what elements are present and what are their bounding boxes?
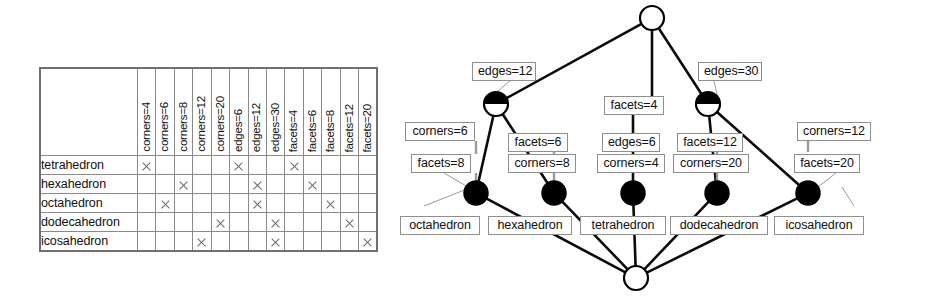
attribute-label-facets-6[interactable]: facets=6: [508, 133, 568, 152]
incidence-cell-empty: [138, 175, 156, 194]
attr-label: edges=30: [270, 103, 282, 152]
cross-icon: [252, 179, 263, 190]
incidence-cell-empty: [285, 175, 303, 194]
incidence-cell-empty: [174, 232, 192, 252]
incidence-cell-empty: [322, 175, 340, 194]
incidence-cell-empty: [230, 175, 248, 194]
cross-icon: [289, 160, 300, 171]
object-name-cell: octahedron: [40, 194, 138, 213]
attribute-label-corners-20[interactable]: corners=20: [673, 154, 749, 173]
lattice-node-m30[interactable]: [696, 92, 720, 116]
incidence-cell-empty: [193, 213, 211, 232]
incidence-cell-empty: [322, 232, 340, 252]
attr-label: corners=8: [178, 102, 190, 152]
object-label-hexahedron[interactable]: hexahedron: [488, 216, 572, 235]
attr-header-facets-8: facets=8: [322, 68, 340, 156]
cross-icon: [325, 198, 336, 209]
incidence-cell-marked: [193, 232, 211, 252]
attr-header-edges-12: edges=12: [248, 68, 266, 156]
attr-header-corners-6: corners=6: [156, 68, 174, 156]
incidence-cell-empty: [138, 232, 156, 252]
table-row: tetrahedron: [40, 156, 377, 175]
attribute-label-edges-12[interactable]: edges=12: [472, 62, 536, 81]
incidence-cell-empty: [340, 194, 358, 213]
label-leader-diag-3: [818, 173, 836, 187]
node-circle-filled: [542, 181, 566, 205]
attr-label: facets=12: [344, 104, 356, 152]
incidence-cell-empty: [359, 213, 377, 232]
table-row: dodecahedron: [40, 213, 377, 232]
attribute-label-corners-12[interactable]: corners=12: [797, 122, 871, 141]
attribute-label-facets-4[interactable]: facets=4: [604, 96, 664, 115]
incidence-cell-empty: [359, 194, 377, 213]
table-header: corners=4 corners=6 corners=8 corners=12…: [40, 68, 377, 156]
lattice-edge-top-m12: [507, 24, 642, 98]
object-name-cell: dodecahedron: [40, 213, 138, 232]
incidence-cell-empty: [138, 213, 156, 232]
table-header-row: corners=4 corners=6 corners=8 corners=12…: [40, 68, 377, 156]
incidence-cell-marked: [138, 156, 156, 175]
attribute-label-edges-6[interactable]: edges=6: [602, 133, 660, 152]
context-cross-table: corners=4 corners=6 corners=8 corners=12…: [39, 67, 378, 245]
table-row: hexahedron: [40, 175, 377, 194]
attribute-label-corners-4[interactable]: corners=4: [597, 154, 665, 173]
object-label-tetrahedron[interactable]: tetrahedron: [580, 216, 666, 235]
lattice-node-tetra[interactable]: [621, 181, 645, 205]
incidence-cell-empty: [248, 213, 266, 232]
lattice-node-m12[interactable]: [484, 92, 508, 116]
lattice-edge-m12-octa: [479, 116, 494, 182]
lattice-edge-tetra-bottom: [633, 205, 635, 266]
node-half-fill-upper: [484, 92, 508, 104]
attr-header-corners-4: corners=4: [138, 68, 156, 156]
incidence-cell-marked: [248, 175, 266, 194]
attr-header-facets-12: facets=12: [340, 68, 358, 156]
incidence-cell-marked: [156, 194, 174, 213]
incidence-cell-empty: [156, 213, 174, 232]
incidence-cell-empty: [266, 156, 284, 175]
attribute-label-corners-6[interactable]: corners=6: [405, 122, 475, 141]
figure-root: corners=4 corners=6 corners=8 corners=12…: [0, 0, 926, 302]
incidence-cell-empty: [193, 175, 211, 194]
incidence-cell-empty: [303, 213, 321, 232]
lattice-node-hexa[interactable]: [542, 181, 566, 205]
object-label-dodecahedron[interactable]: dodecahedron: [670, 216, 768, 235]
lattice-node-icosa[interactable]: [796, 181, 820, 205]
lattice-edge-hexa-bottom: [562, 202, 627, 270]
attribute-label-facets-8[interactable]: facets=8: [411, 154, 471, 173]
cross-icon: [178, 179, 189, 190]
label-leader-diag-1: [714, 81, 717, 94]
lattice-node-bottom[interactable]: [624, 266, 648, 290]
cross-icon: [307, 179, 318, 190]
lattice-node-dodeca[interactable]: [705, 181, 729, 205]
incidence-cell-empty: [359, 175, 377, 194]
incidence-cell-empty: [138, 194, 156, 213]
lattice-node-top[interactable]: [640, 6, 664, 30]
object-label-icosahedron[interactable]: icosahedron: [774, 216, 864, 235]
attr-label: edges=6: [233, 109, 245, 152]
node-circle-filled: [464, 181, 488, 205]
incidence-cell-empty: [174, 213, 192, 232]
attr-label: facets=4: [288, 110, 300, 152]
object-label-octahedron[interactable]: octahedron: [400, 216, 480, 235]
lattice-node-octa[interactable]: [464, 181, 488, 205]
attribute-label-facets-12[interactable]: facets=12: [677, 133, 743, 152]
attribute-label-corners-8[interactable]: corners=8: [508, 154, 576, 173]
attribute-label-facets-20[interactable]: facets=20: [794, 154, 860, 173]
incidence-cell-empty: [285, 194, 303, 213]
incidence-cell-marked: [211, 213, 229, 232]
incidence-cell-empty: [303, 194, 321, 213]
node-circle-filled: [705, 181, 729, 205]
incidence-cell-empty: [340, 175, 358, 194]
incidence-cell-empty: [211, 194, 229, 213]
incidence-cell-marked: [322, 194, 340, 213]
attribute-label-edges-30[interactable]: edges=30: [698, 62, 762, 81]
attr-label: facets=6: [307, 110, 319, 152]
node-circle-empty: [640, 6, 664, 30]
incidence-cell-empty: [174, 156, 192, 175]
cross-icon: [233, 160, 244, 171]
cross-icon: [252, 198, 263, 209]
attr-label: corners=12: [196, 96, 208, 152]
incidence-cell-empty: [322, 156, 340, 175]
attr-label: edges=12: [251, 103, 263, 152]
context-table-grid: corners=4 corners=6 corners=8 corners=12…: [39, 67, 378, 252]
